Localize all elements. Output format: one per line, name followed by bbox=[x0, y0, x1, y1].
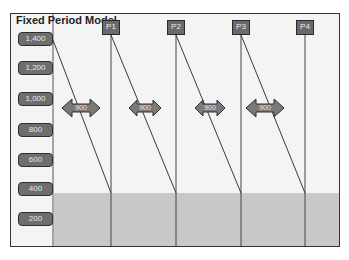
interval-label-4: 900 bbox=[245, 103, 285, 113]
y-label-800: 800 bbox=[18, 123, 53, 137]
depletion-line-1 bbox=[53, 40, 111, 193]
interval-label-1: 900 bbox=[61, 103, 101, 113]
interval-label-3: 900 bbox=[190, 103, 230, 113]
y-label-1200: 1,200 bbox=[18, 61, 53, 75]
interval-label-2: 900 bbox=[125, 103, 165, 113]
depletion-line-2 bbox=[111, 35, 176, 193]
safety-stock-area bbox=[54, 193, 339, 246]
y-label-1000: 1,000 bbox=[18, 92, 53, 106]
y-label-1400: 1,400 bbox=[18, 32, 53, 46]
y-label-400: 400 bbox=[18, 182, 53, 196]
period-box-p4: P4 bbox=[296, 20, 314, 35]
period-box-p2: P2 bbox=[167, 20, 185, 35]
depletion-line-3 bbox=[176, 35, 241, 193]
y-label-600: 600 bbox=[18, 153, 53, 167]
depletion-line-4 bbox=[241, 35, 305, 193]
period-box-p3: P3 bbox=[232, 20, 250, 35]
y-label-200: 200 bbox=[18, 212, 53, 226]
period-box-p1: P1 bbox=[102, 20, 120, 35]
